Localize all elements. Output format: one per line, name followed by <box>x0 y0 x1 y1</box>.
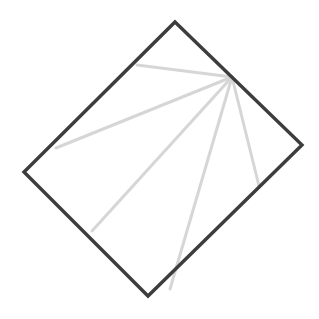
canvas-background <box>0 0 319 319</box>
figure-svg <box>0 0 319 319</box>
figure-canvas <box>0 0 319 319</box>
